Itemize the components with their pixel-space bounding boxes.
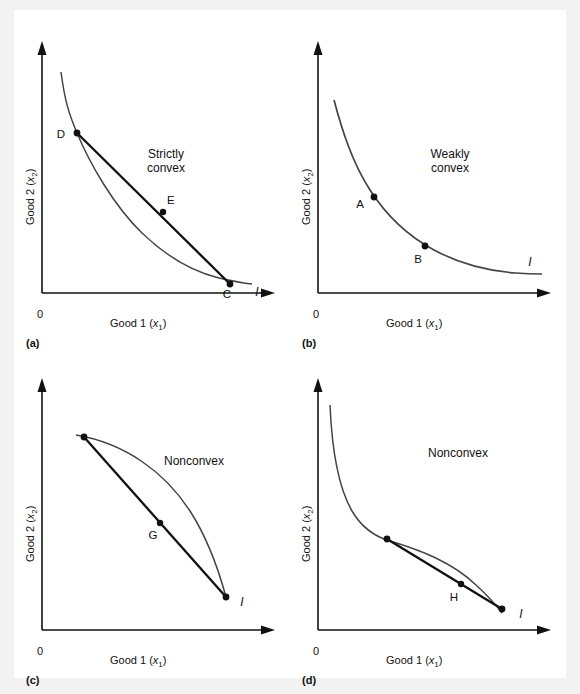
panel-b: A B I Weakly convex 0 Good 1 (x1) Good 2… [290,10,580,357]
x-axis-label-a: Good 1 (x1) [110,317,166,332]
point-c-label: C [223,288,231,300]
point-e-label: E [167,194,175,206]
y-axis-label-a: Good 2 (x2) [24,169,39,225]
svg-text:Good 2 (x2): Good 2 (x2) [24,169,39,225]
point-d-marker [74,130,81,137]
svg-text:Good 2 (x2): Good 2 (x2) [300,506,315,562]
panel-c-plot: G I Nonconvex 0 Good 1 (x1) Good 2 (x2) … [14,347,304,694]
y-axis-label-b: Good 2 (x2) [300,169,315,225]
point-h-marker [458,581,464,587]
point-e-marker [160,209,166,215]
curve-label-c: I [240,595,244,609]
curve-label-d: I [519,607,523,621]
point-b-marker [422,243,429,250]
panel-d: H I Nonconvex 0 Good 1 (x1) Good 2 (x2) … [290,347,580,694]
panel-c-note-line1: Nonconvex [164,454,224,468]
point-b-label: B [414,253,422,265]
point-d-label: D [57,128,65,140]
y-axis-label-c: Good 2 (x2) [24,506,39,562]
point-c-top-marker [81,434,88,441]
svg-text:Good 1 (x1): Good 1 (x1) [386,654,442,669]
panel-b-plot: A B I Weakly convex 0 Good 1 (x1) Good 2… [290,10,580,357]
y-axis-label-d: Good 2 (x2) [300,506,315,562]
svg-text:Good 2 (x2): Good 2 (x2) [24,506,39,562]
curve-label-a: I [255,285,259,299]
x-axis-label-c: Good 1 (x1) [110,654,166,669]
figure-canvas: D E C I Strictly convex 0 Good 1 (x1) Go… [14,10,566,678]
panel-c-caption: (c) [26,674,40,686]
panel-d-caption: (d) [302,674,316,686]
panel-b-note-line1: Weakly [430,147,469,161]
origin-label-b: 0 [313,308,319,320]
panel-a-plot: D E C I Strictly convex 0 Good 1 (x1) Go… [14,10,304,357]
origin-label-a: 0 [37,308,43,320]
point-d-bottom-marker [499,606,506,613]
point-d-top-marker [384,536,391,543]
panel-b-note-line2: convex [431,161,469,175]
point-c-bottom-marker [223,594,230,601]
origin-label-d: 0 [313,645,319,657]
x-axis-label-d: Good 1 (x1) [386,654,442,669]
indifference-curve-d [330,405,502,613]
figure-root: D E C I Strictly convex 0 Good 1 (x1) Go… [0,0,580,694]
panel-d-plot: H I Nonconvex 0 Good 1 (x1) Good 2 (x2) … [290,347,580,694]
chord-d [387,539,502,609]
point-c-marker [227,281,234,288]
svg-text:Good 1 (x1): Good 1 (x1) [110,317,166,332]
indifference-curve-b [334,100,542,274]
point-g-label: G [149,529,158,541]
origin-label-c: 0 [37,645,43,657]
point-a-label: A [356,198,364,210]
panel-a: D E C I Strictly convex 0 Good 1 (x1) Go… [14,10,304,357]
curve-label-b: I [528,255,532,269]
svg-text:Good 1 (x1): Good 1 (x1) [110,654,166,669]
panel-a-note-line1: Strictly [148,147,184,161]
panel-d-note-line1: Nonconvex [428,446,488,460]
panel-c: G I Nonconvex 0 Good 1 (x1) Good 2 (x2) … [14,347,304,694]
svg-text:Good 1 (x1): Good 1 (x1) [386,317,442,332]
svg-text:Good 2 (x2): Good 2 (x2) [300,169,315,225]
panel-a-note-line2: convex [147,161,185,175]
point-h-label: H [450,591,458,603]
point-a-marker [371,194,378,201]
point-g-marker [157,520,163,526]
x-axis-label-b: Good 1 (x1) [386,317,442,332]
indifference-curve-a [61,72,252,284]
